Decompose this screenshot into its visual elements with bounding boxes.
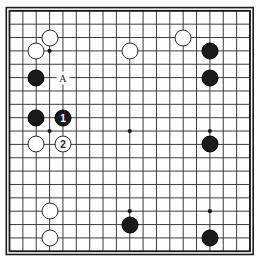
stone-black[interactable]: [28, 109, 45, 126]
stone-move-number: 2: [55, 137, 70, 152]
stone-black[interactable]: [201, 229, 218, 246]
stone-white[interactable]: [175, 29, 192, 46]
stone-black[interactable]: [121, 216, 138, 233]
stone-black-move-1[interactable]: 1: [54, 109, 71, 126]
point-marker-a: A: [56, 71, 69, 84]
stone-black[interactable]: [28, 69, 45, 86]
stones-layer: 12A: [0, 0, 262, 277]
stone-black[interactable]: [201, 136, 218, 153]
stone-black[interactable]: [201, 42, 218, 59]
stone-white[interactable]: [41, 29, 58, 46]
stone-white[interactable]: [121, 42, 138, 59]
stone-move-number: 1: [55, 110, 70, 125]
go-board-diagram: 12A: [0, 0, 262, 277]
stone-white[interactable]: [28, 136, 45, 153]
stone-white[interactable]: [41, 203, 58, 220]
stone-white-move-2[interactable]: 2: [54, 136, 71, 153]
stone-black[interactable]: [201, 69, 218, 86]
stone-white[interactable]: [28, 42, 45, 59]
stone-white[interactable]: [41, 229, 58, 246]
